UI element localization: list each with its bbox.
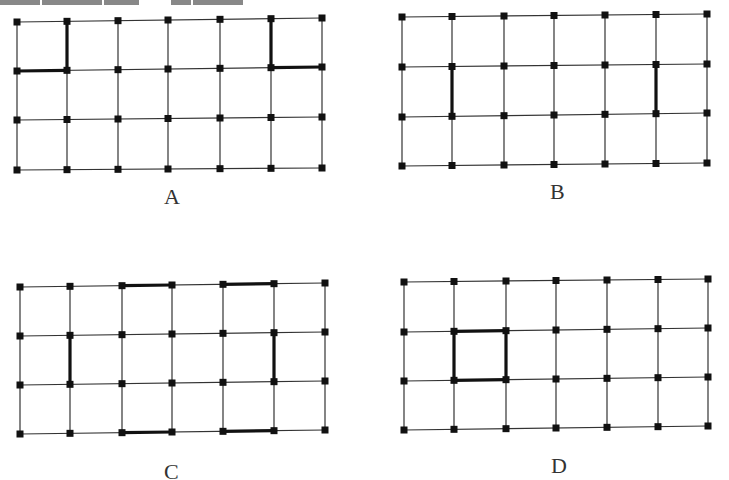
grid-node [655, 325, 662, 332]
grid-node [165, 66, 172, 73]
grid-node [449, 162, 456, 169]
grid-panel-b [399, 11, 711, 170]
grid-node [17, 382, 24, 389]
grid-node [399, 114, 406, 121]
grid-node [604, 277, 611, 284]
grid-node [268, 15, 275, 22]
grid-node [14, 117, 21, 124]
grid-node [14, 19, 21, 26]
grid-node [115, 116, 122, 123]
grid-node [501, 13, 508, 20]
grid-node [17, 431, 24, 438]
grid-node [319, 15, 326, 22]
grid-node [64, 116, 71, 123]
grid-node [165, 115, 172, 122]
grid-node [17, 333, 24, 340]
grid-node [449, 13, 456, 20]
grid-node [322, 280, 329, 287]
grid-node [655, 276, 662, 283]
grid-node [268, 114, 275, 121]
grid-node [451, 278, 458, 285]
grid-node [64, 67, 71, 74]
grid-node [451, 328, 458, 335]
grid-node [602, 12, 609, 19]
grid-panel-a [14, 15, 326, 174]
grid-node [551, 161, 558, 168]
grid-node [704, 61, 711, 68]
grid-node [553, 425, 560, 432]
grid-node [705, 374, 712, 381]
grid-node [17, 284, 24, 291]
grid-node [67, 381, 74, 388]
grid-node [322, 378, 329, 385]
grid-node [165, 17, 172, 24]
grid-node [169, 282, 176, 289]
grid-node [119, 380, 126, 387]
bold-edge [454, 380, 506, 381]
grid-node [602, 161, 609, 168]
grid-node [64, 166, 71, 173]
grid-node [169, 429, 176, 436]
grid-node [268, 64, 275, 71]
grid-node [165, 166, 172, 173]
grid-node [401, 279, 408, 286]
grid-node [449, 113, 456, 120]
grid-node [319, 114, 326, 121]
bold-edge [271, 67, 322, 68]
grid-node [319, 64, 326, 71]
grid-node [119, 282, 126, 289]
grid-node [322, 329, 329, 336]
grid-node [220, 379, 227, 386]
grid-node [14, 68, 21, 75]
grid-node [501, 162, 508, 169]
panel-label-c: C [164, 459, 179, 480]
grid-node [553, 327, 560, 334]
grid-node [169, 331, 176, 338]
bold-edge [122, 285, 172, 286]
bold-edge [223, 284, 274, 285]
grid-diagrams [0, 0, 729, 480]
bold-edge [17, 70, 67, 71]
panel-label-d: D [551, 453, 567, 479]
grid-node [169, 380, 176, 387]
grid-node [551, 112, 558, 119]
grid-node [220, 330, 227, 337]
grid-node [653, 61, 660, 68]
grid-node [319, 165, 326, 172]
grid-node [399, 163, 406, 170]
grid-node [14, 167, 21, 174]
grid-node [503, 278, 510, 285]
grid-node [399, 14, 406, 21]
grid-node [271, 378, 278, 385]
grid-node [115, 17, 122, 24]
grid-node [67, 283, 74, 290]
grid-node [553, 376, 560, 383]
grid-node [67, 332, 74, 339]
grid-node [401, 427, 408, 434]
grid-node [602, 111, 609, 118]
panel-label-b: B [550, 179, 565, 205]
grid-node [268, 165, 275, 172]
panel-label-a: A [164, 184, 180, 210]
grid-node [604, 326, 611, 333]
grid-node [451, 426, 458, 433]
grid-node [449, 63, 456, 70]
grid-panel-d [401, 276, 712, 434]
grid-node [655, 374, 662, 381]
grid-node [653, 160, 660, 167]
grid-node [503, 425, 510, 432]
grid-node [653, 110, 660, 117]
grid-node [551, 62, 558, 69]
grid-node [119, 429, 126, 436]
grid-node [220, 428, 227, 435]
grid-node [704, 11, 711, 18]
grid-node [604, 424, 611, 431]
grid-node [64, 18, 71, 25]
grid-node [501, 112, 508, 119]
grid-node [119, 331, 126, 338]
grid-node [704, 110, 711, 117]
grid-node [217, 165, 224, 172]
grid-node [551, 12, 558, 19]
grid-node [217, 65, 224, 72]
grid-node [67, 430, 74, 437]
